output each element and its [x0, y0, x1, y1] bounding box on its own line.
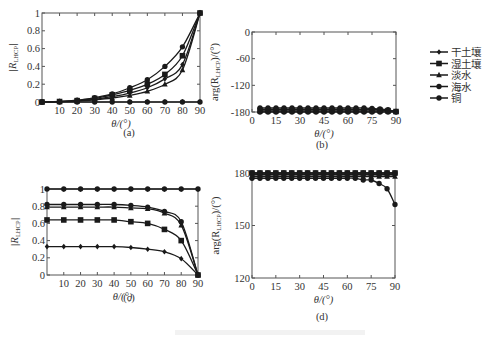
y-tick-label: -180	[231, 107, 250, 118]
circle-marker-icon	[145, 77, 150, 82]
circle-marker-icon	[289, 109, 294, 114]
circle-marker-icon	[265, 176, 270, 181]
diamond-marker-icon	[78, 244, 82, 250]
panel-a-label: (a)	[123, 127, 135, 139]
panel-c-label: (c)	[123, 292, 135, 304]
circle-marker-icon	[321, 109, 326, 114]
series-海水	[39, 10, 202, 104]
circle-marker-icon	[376, 181, 381, 186]
circle-marker-icon	[297, 170, 302, 175]
y-tick-label: 1	[35, 8, 40, 19]
circle-marker-icon	[345, 109, 350, 114]
circle-marker-icon	[337, 170, 342, 175]
series-干土壤	[45, 244, 200, 278]
x-tick-label: 0	[249, 115, 254, 126]
diamond-marker-icon	[162, 249, 166, 255]
circle-marker-icon	[162, 209, 167, 214]
y-tick-label: 0.4	[27, 61, 41, 72]
y-tick-label: 0.4	[32, 235, 46, 246]
circle-marker-icon	[305, 170, 310, 175]
square-marker-icon	[61, 217, 67, 223]
circle-marker-icon	[257, 176, 262, 181]
y-tick-label: -120	[231, 80, 250, 91]
square-marker-icon	[436, 61, 442, 67]
y-tick-label: -60	[236, 53, 250, 64]
series-淡水	[39, 10, 203, 105]
legend-item: 铜	[430, 93, 461, 104]
circle-marker-icon	[337, 109, 342, 114]
y-tick-label: 0.8	[27, 25, 40, 36]
circle-marker-icon	[61, 202, 66, 207]
x-tick-label: 0	[249, 281, 254, 292]
x-tick-label: 40	[109, 278, 120, 289]
x-tick-label: 90	[390, 281, 401, 292]
x-tick-label: 60	[342, 281, 353, 292]
diamond-marker-icon	[95, 244, 99, 250]
diamond-marker-icon	[145, 246, 149, 252]
y-tick-label: 0.6	[27, 43, 40, 54]
legend: 干土壤湿土壤淡水海水铜	[430, 46, 482, 104]
panel-d-label: (d)	[316, 311, 329, 323]
x-tick-label: 30	[295, 115, 306, 126]
circle-marker-icon	[305, 109, 310, 114]
plot-area-frame	[47, 189, 198, 275]
circle-marker-icon	[78, 186, 83, 191]
circle-marker-icon	[393, 109, 398, 114]
circle-marker-icon	[369, 170, 374, 175]
circle-marker-icon	[337, 176, 342, 181]
circle-marker-icon	[180, 44, 185, 49]
circle-marker-icon	[273, 109, 278, 114]
circle-marker-icon	[313, 109, 318, 114]
x-axis-label: θ/(°)	[314, 294, 334, 306]
y-tick-label: 0.8	[32, 201, 45, 212]
y-axis-label: |RLHCP|	[9, 218, 21, 247]
circle-marker-icon	[353, 170, 358, 175]
x-tick-label: 60	[142, 105, 153, 116]
circle-marker-icon	[361, 177, 366, 182]
y-tick-label: 0	[40, 270, 45, 281]
circle-marker-icon	[384, 186, 389, 191]
y-tick-label: 0.2	[32, 252, 45, 263]
circle-marker-icon	[329, 109, 334, 114]
circle-marker-icon	[195, 272, 200, 277]
circle-marker-icon	[297, 109, 302, 114]
x-tick-label: 90	[195, 105, 206, 116]
circle-marker-icon	[127, 85, 132, 90]
circle-marker-icon	[197, 10, 202, 15]
square-marker-icon	[95, 217, 101, 223]
square-marker-icon	[128, 219, 134, 225]
panel-d-phase-chart: 0153045607590120150180θ/(°)arg(RLHCP)/(°…	[210, 168, 400, 307]
circle-marker-icon	[179, 219, 184, 224]
circle-marker-icon	[74, 99, 79, 104]
square-marker-icon	[78, 217, 84, 223]
circle-marker-icon	[353, 109, 358, 114]
circle-marker-icon	[377, 109, 382, 114]
x-tick-label: 75	[367, 115, 378, 126]
square-marker-icon	[145, 221, 151, 227]
legend-label: 湿土壤	[451, 58, 482, 70]
circle-marker-icon	[44, 186, 49, 191]
circle-marker-icon	[321, 170, 326, 175]
circle-marker-icon	[249, 170, 254, 175]
circle-marker-icon	[369, 177, 374, 182]
circle-marker-icon	[44, 202, 49, 207]
series-海水	[44, 202, 200, 278]
circle-marker-icon	[289, 176, 294, 181]
circle-marker-icon	[392, 202, 397, 207]
circle-marker-icon	[95, 202, 100, 207]
legend-item: 湿土壤	[430, 58, 482, 70]
x-tick-label: 30	[294, 281, 305, 292]
circle-marker-icon	[162, 99, 167, 104]
square-marker-icon	[162, 72, 168, 78]
legend-item: 海水	[430, 81, 472, 93]
circle-marker-icon	[297, 176, 302, 181]
circle-marker-icon	[145, 204, 150, 209]
circle-marker-icon	[273, 170, 278, 175]
x-tick-label: 45	[319, 115, 330, 126]
x-tick-label: 30	[89, 105, 100, 116]
circle-marker-icon	[128, 186, 133, 191]
circle-marker-icon	[273, 176, 278, 181]
x-tick-label: 70	[159, 278, 170, 289]
circle-marker-icon	[376, 170, 381, 175]
diamond-marker-icon	[129, 245, 133, 251]
